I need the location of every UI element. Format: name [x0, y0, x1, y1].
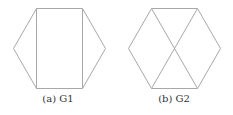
caption-g1: (a) G1: [0, 93, 116, 104]
graph-edge: [129, 9, 152, 49]
figure-g1: (a) G1: [0, 0, 116, 115]
caption-g2: (b) G2: [116, 93, 232, 104]
graph-edge: [198, 9, 221, 49]
graph-edge: [14, 49, 37, 89]
graph-edge: [129, 49, 152, 89]
figure-g2: (b) G2: [116, 0, 232, 115]
graph-g1: [0, 0, 116, 92]
graph-g2: [116, 0, 232, 92]
graph-edge: [83, 9, 106, 49]
graph-edge: [198, 49, 221, 89]
graph-edge: [14, 9, 37, 49]
graph-edge: [83, 49, 106, 89]
